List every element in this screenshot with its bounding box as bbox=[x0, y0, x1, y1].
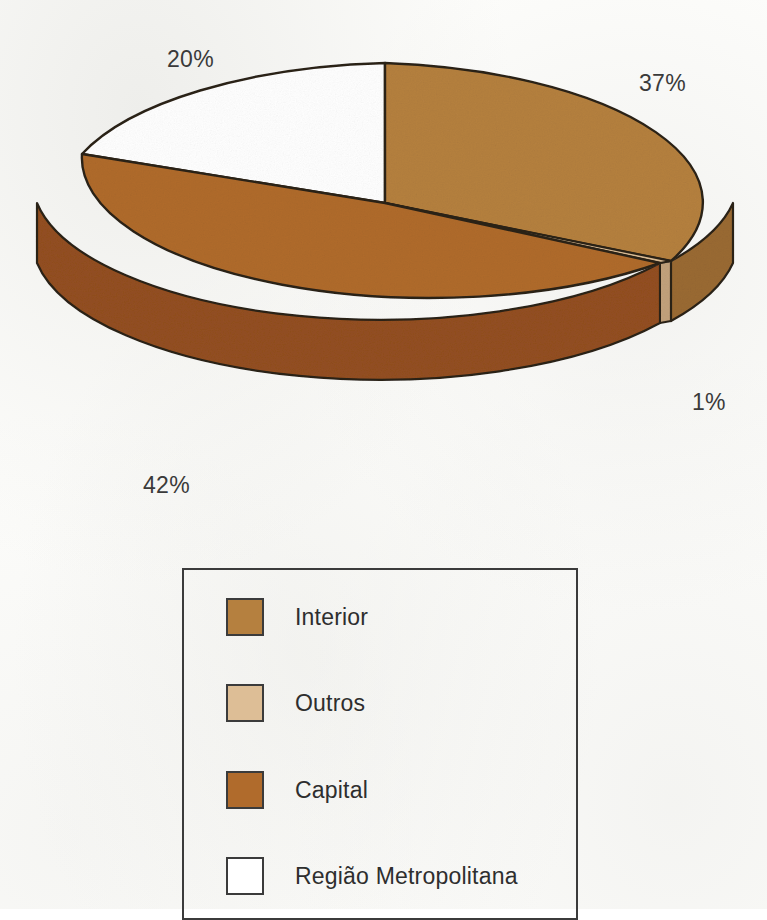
legend-label-outros: Outros bbox=[295, 690, 365, 717]
legend-swatch-interior bbox=[226, 598, 264, 636]
legend-swatch-capital bbox=[226, 771, 264, 809]
legend-item-interior: Interior bbox=[226, 596, 368, 638]
legend-item-regiao-metropolitana: Região Metropolitana bbox=[226, 855, 518, 897]
legend-swatch-outros bbox=[226, 684, 264, 722]
legend-item-outros: Outros bbox=[226, 682, 365, 724]
pie-side-outros bbox=[660, 261, 671, 323]
legend-swatch-regiao-metropolitana bbox=[226, 857, 264, 895]
legend-label-capital: Capital bbox=[295, 777, 368, 804]
legend-label-regiao-metropolitana: Região Metropolitana bbox=[295, 863, 518, 890]
legend-item-capital: Capital bbox=[226, 769, 368, 811]
pie-top-face bbox=[82, 63, 703, 298]
legend-label-interior: Interior bbox=[295, 604, 368, 631]
pie-label-outros: 1% bbox=[692, 389, 726, 416]
pie-label-capital: 42% bbox=[143, 472, 190, 499]
chart-legend: Interior Outros Capital Região Metropoli… bbox=[182, 568, 578, 920]
pie-label-interior: 37% bbox=[639, 70, 686, 97]
pie-label-regiao-metropolitana: 20% bbox=[167, 46, 214, 73]
